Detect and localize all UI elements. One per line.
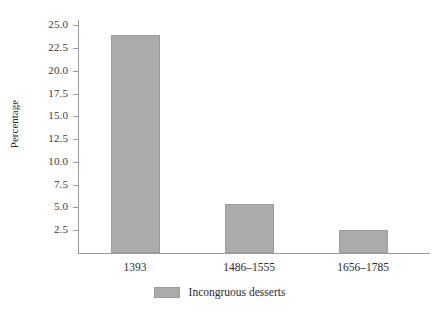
legend-label: Incongruous desserts bbox=[189, 285, 286, 299]
bar bbox=[111, 35, 160, 253]
x-axis-line bbox=[78, 253, 430, 254]
y-axis-tick-label: 25.0 bbox=[0, 17, 68, 32]
x-axis-tick-label: 1393 bbox=[124, 260, 147, 274]
bar-group: 1486–1555 bbox=[225, 20, 274, 253]
chart-legend: Incongruous desserts bbox=[0, 285, 439, 299]
y-axis-tick-label: 7.5 bbox=[0, 177, 68, 192]
bar bbox=[339, 230, 388, 253]
x-axis-tick-label: 1486–1555 bbox=[223, 260, 275, 274]
bar-chart-figure: Percentage 2.55.07.510.012.515.017.520.0… bbox=[0, 0, 439, 312]
bar-group: 1656–1785 bbox=[339, 20, 388, 253]
y-axis-tick-label: 10.0 bbox=[0, 154, 68, 169]
y-axis-tick-label: 20.0 bbox=[0, 63, 68, 78]
y-axis-tick-label: 12.5 bbox=[0, 131, 68, 146]
y-axis-tick-label: 2.5 bbox=[0, 222, 68, 237]
bar-group: 1393 bbox=[111, 20, 160, 253]
y-axis-tick-label: 22.5 bbox=[0, 40, 68, 55]
x-axis-tick-label: 1656–1785 bbox=[337, 260, 389, 274]
legend-swatch-incongruous-desserts bbox=[154, 287, 180, 298]
y-axis-tick-label: 17.5 bbox=[0, 86, 68, 101]
plot-area: 13931486–15551656–1785 bbox=[78, 20, 420, 253]
y-axis-tick-label: 5.0 bbox=[0, 199, 68, 214]
bar bbox=[225, 204, 274, 253]
y-axis-tick-label: 15.0 bbox=[0, 108, 68, 123]
